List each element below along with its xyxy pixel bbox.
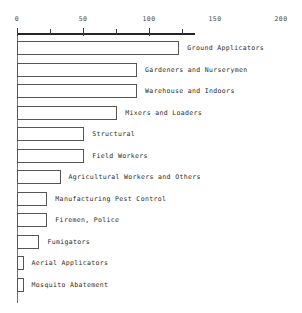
x-axis-tick-50 [83,28,84,36]
bar-label: Warehouse and Indoors [145,84,235,98]
bar-label: Fumigators [47,235,90,249]
x-axis-tick-100 [149,28,150,36]
x-axis-tick-125 [182,29,183,35]
bar-label: Firemen, Police [55,213,119,227]
bar-label: Agricultural Workers and Others [69,170,201,184]
bar [17,192,47,206]
bar-label: Field Workers [92,149,147,163]
bar-chart: 050100150200 Ground ApplicatorsGardeners… [0,0,302,313]
x-axis-label-150: 150 [209,15,222,23]
x-axis-label-50: 50 [79,15,88,23]
bar [17,63,137,77]
bar-label: Structural [92,127,135,141]
bar-label: Aerial Applicators [32,256,109,270]
bar [17,106,117,120]
bar-label: Mixers and Loaders [125,106,202,120]
bar [17,213,47,227]
bar [17,84,137,98]
x-axis-label-200: 200 [275,15,288,23]
bar [17,235,39,249]
bar [17,127,84,141]
bar [17,170,61,184]
x-axis-tick-25 [50,29,51,35]
x-axis-tick-75 [116,29,117,35]
bar [17,256,24,270]
bar [17,149,84,163]
x-axis-tick-0 [17,28,18,36]
x-axis-label-0: 0 [15,15,19,23]
x-axis-label-100: 100 [143,15,156,23]
bar-label: Gardeners and Nurserymen [145,63,247,77]
bar-label: Mosquito Abatement [32,278,109,292]
x-axis-line [17,33,195,35]
bar-label: Ground Applicators [187,41,264,55]
bar [17,41,179,55]
bar [17,278,24,292]
bar-label: Manufacturing Pest Control [55,192,166,206]
